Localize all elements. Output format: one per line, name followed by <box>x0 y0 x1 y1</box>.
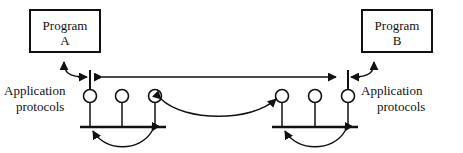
program-a-label-line1: Program <box>43 18 88 33</box>
program-a-hook-path <box>64 62 86 77</box>
program-a-box: Program A <box>30 10 100 52</box>
center-arc <box>161 99 276 116</box>
right-node-1 <box>276 90 289 103</box>
program-b-label-line1: Program <box>375 18 420 33</box>
program-b-label-line2: B <box>393 33 402 48</box>
left-node-1 <box>84 90 97 103</box>
program-a-label-line2: A <box>60 33 70 48</box>
right-lower-arc <box>285 131 345 147</box>
center-arc-group <box>161 99 276 116</box>
diagram-canvas: Program A Program B <box>0 0 463 153</box>
right-node-2 <box>309 90 322 103</box>
left-protocol-stack <box>80 90 166 128</box>
program-b-hook-path <box>352 62 374 77</box>
right-label-line1: Application <box>361 83 423 98</box>
right-node-3 <box>342 90 355 103</box>
program-b-box: Program B <box>362 10 432 52</box>
application-protocol-spine <box>78 70 360 90</box>
left-lower-arc <box>93 131 152 147</box>
left-node-2 <box>116 90 129 103</box>
left-node-3 <box>149 90 162 103</box>
program-a-hook-arrow <box>64 62 86 77</box>
left-label-line1: Application <box>4 83 66 98</box>
left-application-protocols-label: Application protocols <box>4 83 66 114</box>
protocol-diagram: Program A Program B <box>0 0 463 153</box>
program-b-hook-arrow <box>352 62 374 77</box>
right-protocol-stack <box>272 90 358 128</box>
left-label-line2: protocols <box>16 99 64 114</box>
lower-arcs <box>93 131 345 147</box>
right-label-line2: protocols <box>377 99 425 114</box>
right-application-protocols-label: Application protocols <box>361 83 425 114</box>
